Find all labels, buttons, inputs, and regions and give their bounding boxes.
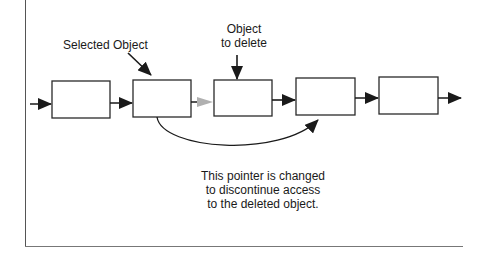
object-to-delete-line-1: Object (212, 22, 276, 36)
node-2-box (133, 80, 191, 117)
old-pointer-2-3-arrowhead (197, 97, 213, 107)
caption-line-3: to the deleted object. (177, 197, 349, 211)
node-4-box (296, 78, 355, 115)
node-5-box (379, 77, 438, 114)
caption: This pointer is changed to discontinue a… (177, 169, 349, 211)
object-to-delete-label: Object to delete (212, 22, 276, 50)
caption-line-1: This pointer is changed (177, 169, 349, 183)
selected-object-label-arrow (128, 53, 151, 75)
node-1-box (52, 81, 110, 118)
object-to-delete-line-2: to delete (212, 36, 276, 50)
selected-object-label: Selected Object (63, 38, 148, 52)
node-3-box (214, 80, 272, 116)
new-pointer-curve-arrow (157, 117, 318, 145)
caption-line-2: to discontinue access (177, 183, 349, 197)
